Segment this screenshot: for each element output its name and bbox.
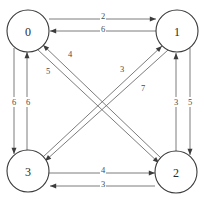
node-label-2: 2 — [173, 166, 179, 180]
graph-node-3[interactable]: 3 — [7, 150, 49, 192]
edge-weight-0-to-2: 5 — [46, 66, 50, 76]
edge-weight-1-to-0: 6 — [101, 24, 105, 34]
node-label-0: 0 — [25, 25, 31, 39]
edge-weight-2-to-1: 3 — [174, 97, 178, 107]
directed-graph-figure: 266635434537 0123 — [0, 0, 204, 204]
node-label-1: 1 — [174, 25, 180, 39]
arrowhead-2-to-3 — [50, 184, 56, 189]
edge-weight-3-to-1: 3 — [120, 64, 124, 74]
node-label-3: 3 — [25, 165, 31, 179]
graph-node-1[interactable]: 1 — [156, 10, 198, 52]
edge-weight-2-to-3: 3 — [101, 179, 105, 189]
graph-node-2[interactable]: 2 — [155, 151, 197, 193]
edge-weight-3-to-0: 6 — [26, 97, 30, 107]
arrowhead-0-to-1 — [150, 17, 156, 22]
arrowhead-1-to-2 — [188, 149, 193, 155]
arrowhead-3-to-2 — [149, 171, 155, 176]
edge-weight-1-to-2: 5 — [188, 97, 192, 107]
edge-weight-0-to-1: 2 — [101, 11, 105, 21]
graph-canvas: 266635434537 0123 — [0, 0, 204, 204]
edge-weight-0-to-3: 6 — [12, 97, 16, 107]
graph-edge-1-to-3 — [45, 50, 168, 161]
arrowhead-2-to-1 — [174, 53, 179, 59]
arrowhead-0-to-3 — [12, 148, 17, 154]
edge-weight-1-to-3: 7 — [141, 83, 145, 93]
arrowhead-3-to-0 — [25, 52, 30, 58]
graph-node-0[interactable]: 0 — [7, 10, 49, 52]
arrowhead-1-to-0 — [50, 29, 56, 34]
